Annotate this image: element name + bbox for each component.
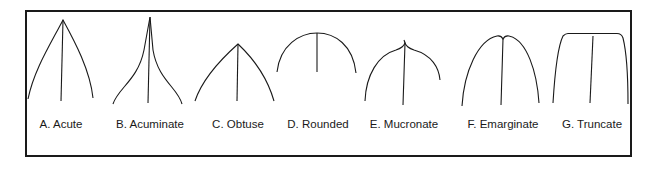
emarginate-apex-shape bbox=[462, 36, 539, 106]
label-rounded: D. Rounded bbox=[287, 118, 348, 130]
acuminate-apex-shape bbox=[113, 17, 182, 104]
label-acuminate: B. Acuminate bbox=[116, 118, 184, 130]
label-mucronate: E. Mucronate bbox=[370, 118, 438, 130]
truncate-apex-shape bbox=[553, 34, 628, 105]
mucronate-apex-shape bbox=[365, 40, 440, 105]
label-emarginate: F. Emarginate bbox=[468, 118, 539, 130]
leaf-apex-drawings bbox=[0, 0, 661, 172]
label-truncate: G. Truncate bbox=[562, 118, 622, 130]
label-obtuse: C. Obtuse bbox=[212, 118, 264, 130]
acute-apex-shape bbox=[28, 20, 93, 101]
rounded-apex-shape bbox=[277, 33, 356, 73]
obtuse-apex-shape bbox=[195, 44, 274, 101]
label-acute: A. Acute bbox=[40, 118, 83, 130]
